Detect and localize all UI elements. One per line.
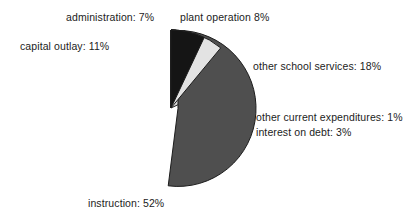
pie-slice-group [168,30,256,186]
pie-label-plant-operation: plant operation 8% [180,11,269,23]
pie-label-capital-outlay: capital outlay: 11% [20,40,109,52]
pie-label-other-school-services: other school services: 18% [253,60,381,72]
pie-label-interest-on-debt: interest on debt: 3% [256,126,351,138]
pie-label-instruction: instruction: 52% [88,197,164,209]
pie-label-administration: administration: 7% [66,11,154,23]
pie-chart-page: administration: 7% plant operation 8% ca… [0,0,411,220]
pie-chart-graphic [0,0,411,220]
pie-label-other-current-expenditures: other current expenditures: 1% [256,111,403,123]
